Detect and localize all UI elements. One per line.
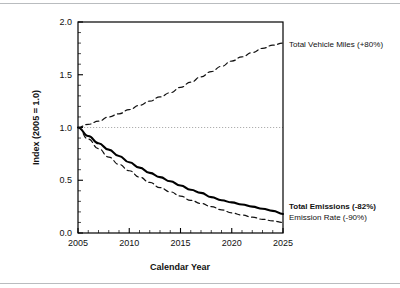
x-tick-label-2025: 2025 [273, 238, 293, 248]
x-tick-label-2020: 2020 [222, 238, 242, 248]
y-tick-label-0.0: 0.0 [59, 228, 72, 238]
y-tick-label-1.5: 1.5 [59, 70, 72, 80]
y-axis-tick-labels: 0.00.51.01.52.0 [59, 17, 72, 238]
series-label-total-vehicle-miles: Total Vehicle Miles (+80%) [289, 40, 383, 49]
series-label-emission-rate: Emission Rate (-90%) [289, 213, 367, 222]
y-axis-title: Index (2005 = 1.0) [31, 90, 41, 165]
series-label-total-emissions: Total Emissions (-82%) [289, 202, 376, 211]
index-trend-line-chart: 0.00.51.01.52.0 20052010201520202025 Ind… [0, 0, 400, 288]
x-axis-title: Calendar Year [150, 262, 210, 272]
y-tick-label-1.0: 1.0 [59, 123, 72, 133]
x-tick-label-2015: 2015 [170, 238, 190, 248]
figure-container: 0.00.51.01.52.0 20052010201520202025 Ind… [0, 0, 400, 288]
x-tick-label-2010: 2010 [119, 238, 139, 248]
x-axis-tick-labels: 20052010201520202025 [68, 238, 293, 248]
x-tick-label-2005: 2005 [68, 238, 88, 248]
y-tick-label-0.5: 0.5 [59, 175, 72, 185]
y-tick-label-2.0: 2.0 [59, 17, 72, 27]
